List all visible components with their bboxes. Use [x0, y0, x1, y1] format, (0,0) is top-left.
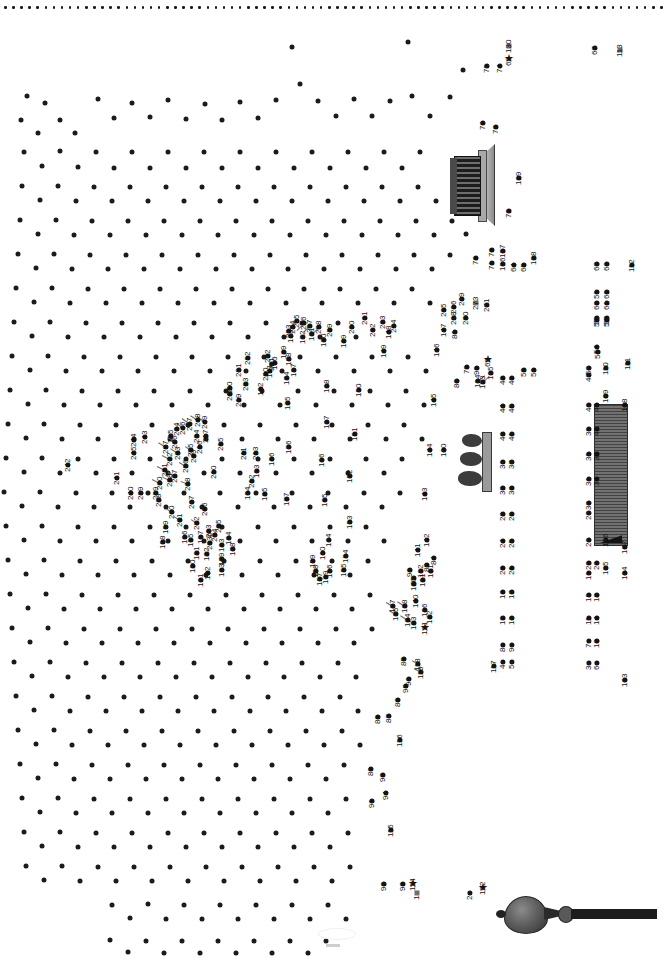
frame-dot	[85, 6, 88, 9]
background-dot	[214, 743, 219, 748]
frame-dot	[531, 6, 534, 9]
point-label: 206	[201, 503, 209, 516]
point-label: 128	[530, 252, 538, 265]
background-dot	[234, 951, 239, 956]
background-dot	[32, 300, 37, 305]
point-label: 72	[505, 209, 513, 218]
background-dot	[180, 939, 185, 944]
background-dot	[130, 831, 135, 836]
point-label: 90	[379, 773, 387, 782]
background-dot	[124, 253, 129, 258]
torch-cap	[496, 910, 506, 918]
background-dot	[230, 695, 235, 700]
point-label: 148	[385, 326, 393, 339]
background-dot	[206, 403, 211, 408]
point-label: 180	[189, 560, 197, 573]
frame-dot	[134, 6, 137, 9]
background-dot	[50, 694, 55, 699]
background-dot	[22, 470, 27, 475]
frame-dot	[547, 6, 550, 9]
point-label: 261	[361, 312, 369, 325]
background-dot	[114, 559, 119, 564]
background-dot	[94, 831, 99, 836]
background-dot	[330, 559, 335, 564]
frame-dot	[490, 6, 493, 9]
background-dot	[190, 355, 195, 360]
background-dot	[422, 403, 427, 408]
background-dot	[290, 199, 295, 204]
frame-dot	[158, 6, 161, 9]
background-dot	[340, 729, 345, 734]
background-dot	[160, 729, 165, 734]
background-dot	[464, 232, 469, 237]
background-dot	[56, 796, 61, 801]
frame-dot	[101, 6, 104, 9]
torch-illustration	[496, 890, 666, 940]
frame-dot	[360, 6, 363, 9]
point-label: 223	[242, 378, 250, 391]
background-dot	[36, 232, 41, 237]
background-dot	[94, 471, 99, 476]
background-dot	[98, 607, 103, 612]
frame-dot	[612, 6, 615, 9]
point-label: 273	[472, 297, 480, 310]
background-dot	[120, 661, 125, 666]
background-dot	[218, 199, 223, 204]
background-dot	[244, 641, 249, 646]
point-label: 131	[421, 622, 429, 635]
point-label: 33	[508, 486, 516, 495]
background-dot	[68, 709, 73, 714]
background-dot	[418, 150, 423, 155]
background-dot	[56, 505, 61, 510]
background-dot	[116, 389, 121, 394]
frame-dot	[142, 6, 145, 9]
background-dot	[400, 457, 405, 462]
frame-dot	[555, 6, 558, 9]
point-label: 145	[430, 394, 438, 407]
background-dot	[364, 457, 369, 462]
background-dot	[398, 199, 403, 204]
frame-dot	[595, 6, 598, 9]
background-dot	[304, 729, 309, 734]
point-label: 24	[499, 539, 507, 548]
point-label: 1	[413, 896, 421, 900]
background-dot	[64, 641, 69, 646]
point-label: 45	[508, 404, 516, 413]
background-dot	[318, 675, 323, 680]
point-label: 163	[218, 564, 226, 577]
background-dot	[394, 267, 399, 272]
background-dot	[220, 118, 225, 123]
point-label: 14	[593, 616, 601, 625]
background-dot	[302, 695, 307, 700]
background-dot	[192, 321, 197, 326]
frame-dot	[377, 6, 380, 9]
background-dot	[266, 695, 271, 700]
frame-dot	[328, 6, 331, 9]
background-dot	[43, 101, 48, 106]
background-dot	[146, 811, 151, 816]
point-label: 200	[168, 506, 176, 519]
background-dot	[334, 355, 339, 360]
animal-1	[462, 434, 482, 447]
point-label: 56	[593, 316, 601, 325]
background-dot	[356, 301, 361, 306]
point-label: 271	[483, 299, 491, 312]
background-dot	[298, 82, 303, 87]
background-dot	[102, 675, 107, 680]
frame-dot	[255, 6, 258, 9]
background-dot	[162, 951, 167, 956]
point-label: 38	[593, 452, 601, 461]
background-dot	[70, 743, 75, 748]
background-dot	[154, 355, 159, 360]
background-dot	[332, 389, 337, 394]
background-dot	[190, 627, 195, 632]
frame-dot	[628, 6, 631, 9]
point-label: 100	[440, 444, 448, 457]
frame-dot	[223, 6, 226, 9]
background-dot	[180, 777, 185, 782]
frame-dot	[279, 6, 282, 9]
background-dot	[218, 491, 223, 496]
point-label: 71	[488, 261, 496, 270]
point-label: 32	[499, 486, 507, 495]
frame-dot	[296, 6, 299, 9]
